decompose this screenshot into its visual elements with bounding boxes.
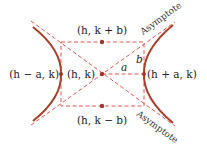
label-asymptote-bottom: Asymptote [134,108,180,145]
label-bottom: (h, k − b) [77,114,127,126]
label-b: b [136,53,143,65]
label-a: a [121,61,127,73]
label-left-vertex: (h − a, k) [9,68,59,80]
label-right-vertex: (h + a, k) [147,68,197,80]
label-center: (h, k) [67,68,95,80]
top-point [100,40,104,44]
bottom-point [100,104,104,108]
hyperbola-diagram: (h, k + b) (h, k − b) (h − a, k) (h, k) … [0,0,207,147]
label-asymptote-top: Asymptote [137,0,183,37]
right-vertex-point [142,72,146,76]
center-point [100,72,104,76]
label-top: (h, k + b) [77,24,127,36]
left-vertex-point [59,72,63,76]
